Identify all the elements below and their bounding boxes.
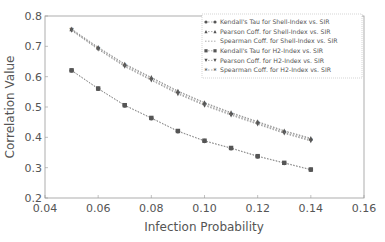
star-marker-icon: *	[283, 129, 287, 137]
square-marker-icon	[309, 167, 313, 171]
y-tick-label: 0.6	[25, 71, 43, 84]
circle-marker-icon	[213, 20, 216, 23]
y-tick-label: 0.5	[25, 101, 43, 114]
x-tick-label: 0.14	[299, 202, 324, 215]
x-tick-label: 0.12	[245, 202, 270, 215]
x-tick-label: 0.10	[192, 202, 217, 215]
y-tick-label: 0.7	[25, 40, 43, 53]
square-marker-icon	[282, 161, 286, 165]
star-marker-icon: *	[256, 120, 260, 128]
star-marker-icon: *	[150, 76, 154, 84]
legend-item: Pearson Coff. for Shell-Index vs. SIR	[204, 28, 331, 35]
star-marker-icon: *	[123, 62, 127, 70]
square-marker-icon	[204, 49, 207, 52]
legend-label: Spearman Coff. for Shell-Index vs. SIR	[220, 37, 338, 45]
legend-item: Kendall's Tau for H2-Index vs. SIR	[204, 47, 323, 54]
circle-marker-icon	[204, 20, 207, 23]
star-marker-icon: *	[309, 137, 313, 145]
legend-item: Kendall's Tau for Shell-Index vs. SIR	[204, 18, 330, 25]
y-tick-label: 0.4	[25, 131, 43, 144]
legend-label: Pearson Coff. for H2-Index vs. SIR	[220, 57, 325, 64]
square-marker-icon	[176, 129, 180, 133]
y-tick-label: 0.3	[25, 162, 43, 175]
x-tick-label: 0.04	[33, 202, 58, 215]
star-marker-icon: *	[70, 26, 74, 34]
legend-item: Spearman Coff. for Shell-Index vs. SIR	[205, 37, 338, 45]
legend-label: Kendall's Tau for Shell-Index vs. SIR	[220, 18, 330, 25]
square-marker-icon	[202, 138, 206, 142]
x-tick-label: 0.08	[139, 202, 164, 215]
legend-label: Spearman Coff. for H2-Index vs. SIR	[220, 66, 332, 74]
square-marker-icon	[213, 49, 216, 52]
y-axis-label: Correlation Value	[3, 56, 17, 159]
star-marker-icon: *	[176, 90, 180, 98]
star-marker-icon: *	[203, 101, 207, 109]
square-marker-icon	[229, 146, 233, 150]
legend-label: Pearson Coff. for Shell-Index vs. SIR	[220, 28, 331, 35]
star-marker-icon: *	[96, 45, 100, 53]
y-axis-ticks: 0.20.30.40.50.60.70.8	[25, 10, 49, 205]
star-marker-icon: *	[213, 67, 217, 75]
square-marker-icon	[69, 68, 73, 72]
y-tick-label: 0.8	[25, 10, 43, 23]
square-marker-icon	[149, 116, 153, 120]
square-marker-icon	[96, 86, 100, 90]
x-tick-label: 0.06	[86, 202, 111, 215]
x-tick-label: 0.16	[352, 202, 377, 215]
correlation-chart: 0.20.30.40.50.60.70.8 0.040.060.080.100.…	[0, 0, 385, 242]
legend-label: Kendall's Tau for H2-Index vs. SIR	[220, 47, 324, 54]
square-marker-icon	[255, 154, 259, 158]
star-marker-icon: *	[204, 67, 208, 75]
square-marker-icon	[123, 103, 127, 107]
x-axis-label: Infection Probability	[144, 220, 264, 234]
legend: Kendall's Tau for Shell-Index vs. SIRPea…	[202, 14, 362, 78]
legend-item: Pearson Coff. for H2-Index vs. SIR	[204, 57, 324, 64]
star-marker-icon: *	[229, 111, 233, 119]
